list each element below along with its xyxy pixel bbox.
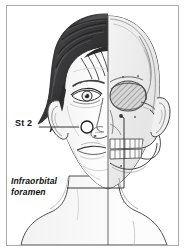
lower-teeth xyxy=(110,149,142,159)
mental-foramen-dot xyxy=(120,165,122,167)
supraorbital-dot xyxy=(122,76,124,78)
st2-point-marker xyxy=(81,121,93,133)
label-infraorbital-line1: Infraorbital xyxy=(11,176,57,187)
label-st2: St 2 xyxy=(15,118,32,128)
orbit-socket xyxy=(110,81,146,111)
label-infraorbital-line2: foramen xyxy=(11,187,57,198)
figure-frame: St 2 Infraorbital foramen xyxy=(0,0,185,252)
head-illustration xyxy=(7,6,178,245)
label-infraorbital-foramen: Infraorbital foramen xyxy=(11,176,57,197)
upper-teeth xyxy=(110,139,143,149)
